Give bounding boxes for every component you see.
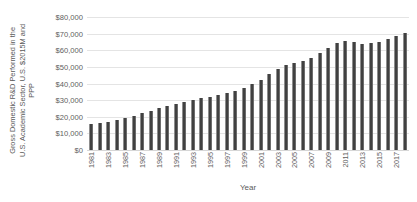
x-axis-tick-label: 2003	[273, 152, 282, 168]
bar	[326, 48, 330, 150]
bar-slot	[189, 17, 197, 150]
bar-slot	[282, 17, 290, 150]
x-axis-tick-label: 1993	[188, 152, 197, 168]
x-axis-tick-label: 1985	[121, 152, 130, 168]
bar-chart: Gross Domestic R&D Performed in the U.S.…	[0, 0, 417, 202]
y-axis-title-line-1: Gross Domestic R&D Performed in the	[9, 23, 19, 156]
bar	[259, 80, 263, 150]
bar	[284, 65, 288, 150]
x-axis-tick-slot: 1991	[172, 151, 180, 177]
x-axis-tick-slot: 2001	[256, 151, 264, 177]
x-axis-tick-label: 1991	[171, 152, 180, 168]
bar	[403, 33, 407, 150]
x-axis-tick-label: 2001	[256, 152, 265, 168]
x-axis-tick-label: 2017	[392, 152, 401, 168]
x-axis-tick-slot	[214, 151, 222, 177]
x-axis-tick-label: 2013	[358, 152, 367, 168]
x-axis-tick-label: 2011	[341, 152, 350, 167]
bar	[191, 100, 195, 150]
y-axis-tick-label: $60,000	[56, 46, 83, 55]
y-axis-tick-labels: $0$10,000$20,000$30,000$40,000$50,000$60…	[44, 0, 86, 202]
bar	[352, 42, 356, 150]
bar	[225, 93, 229, 150]
y-axis-tick-label: $50,000	[56, 62, 83, 71]
x-axis-tick-slot: 2015	[375, 151, 383, 177]
plot-area	[87, 17, 409, 150]
bar-slot	[104, 17, 112, 150]
x-axis-tick-slot	[180, 151, 188, 177]
bar-slot	[366, 17, 374, 150]
bar-slot	[375, 17, 383, 150]
y-axis-tick-label: $30,000	[56, 96, 83, 105]
x-axis-tick-label: 1995	[205, 152, 214, 168]
bar	[318, 53, 322, 150]
bar	[276, 69, 280, 150]
bar-slot	[358, 17, 366, 150]
bar	[115, 120, 119, 150]
x-axis-tick-slot: 2005	[290, 151, 298, 177]
bar	[182, 102, 186, 150]
bar-slot	[299, 17, 307, 150]
bar	[132, 116, 136, 150]
bar	[301, 61, 305, 150]
bar-slot	[341, 17, 349, 150]
bar-slot	[316, 17, 324, 150]
x-axis-tick-label: 1981	[87, 152, 96, 168]
x-axis-tick-slot: 1983	[104, 151, 112, 177]
x-axis-tick-label: 2007	[307, 152, 316, 168]
x-axis-tick-slot	[197, 151, 205, 177]
x-axis-tick-slot: 1993	[189, 151, 197, 177]
bar	[106, 122, 110, 150]
bar-slot	[214, 17, 222, 150]
bar	[360, 44, 364, 150]
x-axis-tick-slot	[400, 151, 408, 177]
bar	[208, 97, 212, 150]
bar	[157, 108, 161, 150]
bar-slot	[256, 17, 264, 150]
bar-slot	[392, 17, 400, 150]
x-axis-tick-slot: 2011	[341, 151, 349, 177]
bar	[216, 95, 220, 150]
bar	[335, 43, 339, 150]
bar	[233, 91, 237, 150]
bar-slot	[239, 17, 247, 150]
x-axis-tick-slot: 2009	[324, 151, 332, 177]
x-axis-tick-slot: 2007	[307, 151, 315, 177]
x-axis-tick-slot: 1999	[239, 151, 247, 177]
bar-slot	[248, 17, 256, 150]
bar	[394, 36, 398, 150]
bar	[199, 98, 203, 150]
bar-slot	[129, 17, 137, 150]
x-axis-tick-slot: 1981	[87, 151, 95, 177]
y-axis-tick-label: $10,000	[56, 129, 83, 138]
bar	[89, 124, 93, 150]
bar-slot	[273, 17, 281, 150]
bar	[242, 88, 246, 150]
x-axis-tick-label: 1987	[138, 152, 147, 168]
bar-slot	[112, 17, 120, 150]
y-axis-title: Gross Domestic R&D Performed in the U.S.…	[0, 0, 46, 180]
x-axis-tick-labels: 1981198319851987198919911993199519971999…	[87, 151, 409, 177]
bar-slot	[87, 17, 95, 150]
bar-slot	[138, 17, 146, 150]
bar-slot	[265, 17, 273, 150]
x-axis-tick-slot	[265, 151, 273, 177]
bar-series	[87, 17, 409, 150]
bar-slot	[290, 17, 298, 150]
x-axis-tick-slot	[163, 151, 171, 177]
bar	[309, 58, 313, 150]
x-axis-tick-label: 2009	[324, 152, 333, 168]
x-axis-tick-slot: 2013	[358, 151, 366, 177]
bar	[292, 63, 296, 150]
bar	[98, 123, 102, 150]
x-axis-tick-label: 1997	[222, 152, 231, 168]
y-axis-tick-label: $20,000	[56, 112, 83, 121]
bar-slot	[163, 17, 171, 150]
x-axis-tick-slot: 2017	[392, 151, 400, 177]
x-axis-tick-slot: 2003	[273, 151, 281, 177]
bar-slot	[400, 17, 408, 150]
x-axis-tick-label: 1983	[104, 152, 113, 168]
bar	[386, 39, 390, 150]
y-axis-tick-label: $80,000	[56, 13, 83, 22]
bar-slot	[197, 17, 205, 150]
